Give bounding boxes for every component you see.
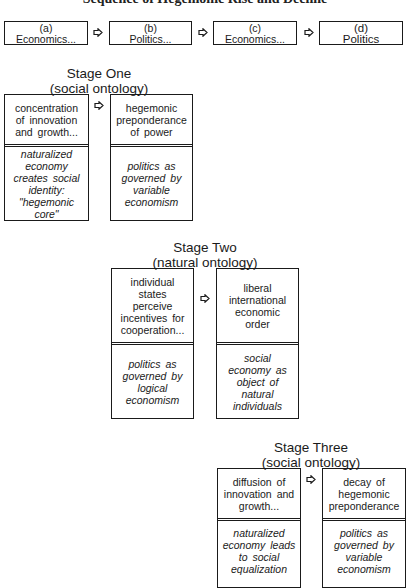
stage-one-box-1: concentration of innovation and growth..…: [4, 94, 89, 221]
stage-two-box-1: individual states perceive incentives fo…: [111, 268, 194, 419]
diagram-title: Sequence of Hegemonic Rise and Decline: [40, 0, 370, 7]
arrow-right-outline-icon: [94, 101, 104, 110]
stage-one-heading: Stage One (social ontology): [4, 66, 194, 96]
sequence-box-a: (a) Economics...: [4, 21, 88, 45]
stage-one-box-2: hegemonic preponderance of power politic…: [110, 94, 193, 221]
box-divider: [111, 144, 192, 147]
arrow-right-outline-icon: [200, 294, 210, 303]
arrow-right-outline-icon: [198, 28, 208, 37]
stage-name: Stage One: [4, 66, 194, 81]
box-lower-text: politics as governed by logical economis…: [123, 358, 183, 406]
box-upper-text: decay of hegemonic preponderance: [329, 476, 400, 512]
box-lower-text: naturalized economy creates social ident…: [13, 148, 79, 220]
arrow-right-outline-icon: [93, 28, 103, 37]
box-divider: [112, 342, 193, 345]
sequence-box-b: (b) Politics...: [109, 21, 192, 45]
stage-name: Stage Two: [110, 240, 300, 255]
box-lower-text: social economy as object of natural indi…: [228, 352, 287, 412]
stage-two-heading: Stage Two (natural ontology): [110, 240, 300, 270]
sequence-label: Politics...: [110, 34, 191, 45]
sequence-label: Economics...: [5, 34, 87, 45]
box-lower-text: naturalized economy leads to social equa…: [223, 527, 296, 575]
box-upper-text: diffusion of innovation and growth...: [224, 476, 294, 512]
box-divider: [5, 144, 88, 147]
box-upper-text: hegemonic preponderance of power: [116, 102, 187, 138]
box-upper-text: liberal international economic order: [229, 282, 286, 330]
box-lower-text: politics as governed by variable economi…: [334, 527, 394, 575]
box-divider: [217, 342, 298, 345]
arrow-right-outline-icon: [304, 28, 314, 37]
box-upper-text: concentration of innovation and growth..…: [15, 102, 78, 138]
box-divider: [218, 518, 300, 521]
stage-three-box-1: diffusion of innovation and growth... na…: [217, 468, 301, 588]
sequence-box-d: (d) Politics: [319, 21, 403, 45]
stage-three-box-2: decay of hegemonic preponderance politic…: [322, 468, 406, 588]
arrow-right-outline-icon: [306, 475, 316, 484]
sequence-label: Politics: [320, 34, 402, 45]
box-upper-text: individual states perceive incentives fo…: [121, 276, 185, 336]
stage-three-heading: Stage Three (social ontology): [216, 440, 406, 470]
stage-name: Stage Three: [216, 440, 406, 455]
box-divider: [323, 518, 405, 521]
box-lower-text: politics as governed by variable economi…: [122, 160, 182, 208]
sequence-box-c: (c) Economics...: [213, 21, 297, 45]
stage-two-box-2: liberal international economic order soc…: [216, 268, 299, 419]
sequence-label: Economics...: [214, 34, 296, 45]
